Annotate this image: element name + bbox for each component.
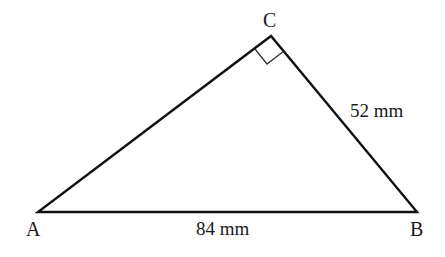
triangle-abc bbox=[38, 36, 417, 212]
side-label-bc: 52 mm bbox=[350, 101, 403, 120]
vertex-label-a: A bbox=[26, 219, 40, 239]
vertex-label-b: B bbox=[410, 219, 423, 239]
triangle-diagram: C A B 52 mm 84 mm bbox=[0, 0, 445, 257]
right-angle-marker bbox=[255, 49, 284, 64]
side-label-ab: 84 mm bbox=[196, 219, 249, 238]
vertex-label-c: C bbox=[263, 10, 276, 30]
